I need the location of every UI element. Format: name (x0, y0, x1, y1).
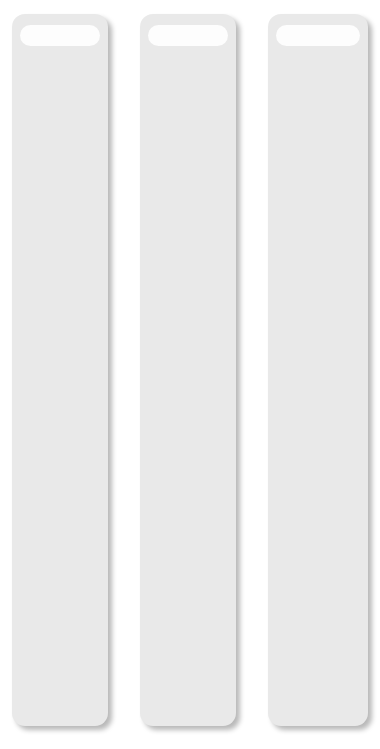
column-micro (268, 14, 368, 726)
column-header-macro (20, 25, 100, 46)
column-header-micro (276, 25, 360, 46)
column-meso (140, 14, 236, 726)
column-macro (12, 14, 108, 726)
column-header-meso (148, 25, 228, 46)
diagram-canvas (0, 0, 380, 749)
